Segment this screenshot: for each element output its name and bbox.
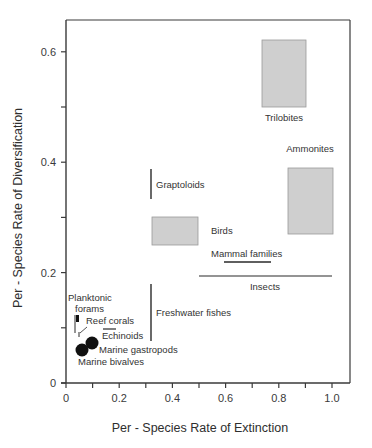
echinoids-label: Echinoids: [102, 330, 143, 341]
birds-box: [152, 217, 198, 245]
planktonic-forams-label-line1: Planktonic: [68, 292, 112, 303]
x-tick-label: 0.2: [112, 392, 127, 404]
y-tick-label: 0.6: [41, 46, 56, 58]
x-ticks: [66, 383, 332, 388]
ammonites-box: [288, 168, 333, 234]
ammonites-label: Ammonites: [286, 143, 334, 154]
planktonic-forams-label-line2: forams: [75, 303, 104, 314]
mammal-families-label: Mammal families: [211, 248, 283, 259]
x-tick-labels: 0 0.2 0.4 0.6 0.8 1.0: [63, 392, 340, 404]
y-tick-label: 0: [50, 377, 56, 389]
x-tick-label: 0.6: [218, 392, 233, 404]
marine-bivalves-dot: [76, 344, 89, 357]
birds-label: Birds: [211, 225, 233, 236]
y-tick-label: 0.2: [41, 267, 56, 279]
trilobites-box: [262, 40, 306, 107]
insects-label: Insects: [250, 281, 280, 292]
y-axis-title: Per - Species Rate of Diversification: [11, 108, 25, 308]
x-tick-label: 0.8: [271, 392, 286, 404]
x-axis-title: Per - Species Rate of Extinction: [112, 421, 289, 435]
x-tick-label: 0.4: [165, 392, 180, 404]
marine-gastropods-label: Marine gastropods: [99, 344, 178, 355]
chart-svg: 0 0.2 0.4 0.6 0.8 1.0 0 0.2 0.4 0.6 Per …: [0, 0, 372, 448]
graptoloids-label: Graptoloids: [156, 179, 205, 190]
x-tick-label: 0: [63, 392, 69, 404]
y-tick-label: 0.4: [41, 156, 56, 168]
x-tick-label: 1.0: [324, 392, 339, 404]
reef-corals-pointer: [80, 327, 87, 333]
trilobites-label: Trilobites: [265, 112, 303, 123]
reef-corals-label: Reef corals: [86, 315, 134, 326]
freshwater-fishes-label: Freshwater fishes: [156, 307, 231, 318]
y-ticks: [61, 52, 66, 383]
marine-bivalves-label: Marine bivalves: [78, 356, 144, 367]
y-tick-labels: 0 0.2 0.4 0.6: [41, 46, 56, 389]
planktonic-forams-marker: [76, 315, 79, 322]
